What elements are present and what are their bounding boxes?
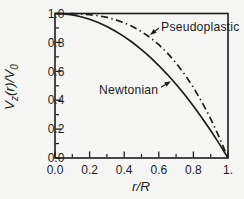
chart-generated-content: 0.00.20.40.60.81.0.00.20.40.60.81.0Pseud…	[47, 7, 240, 177]
x-tick-label: 1.	[223, 163, 233, 177]
y-axis-title: Vz(r)/V0	[2, 64, 20, 110]
chart-canvas: 0.00.20.40.60.81.0.00.20.40.60.81.0Pseud…	[0, 0, 244, 199]
y-tick-label: 0.8	[48, 36, 65, 50]
newtonian-label: Newtonian	[99, 83, 158, 97]
x-tick-label: 0.8	[185, 163, 202, 177]
y-tick-label: 0.4	[48, 93, 65, 107]
pseudoplastic-label: Pseudoplastic	[161, 20, 239, 34]
y-tick-label: 0.6	[48, 65, 65, 79]
x-tick-label: 0.6	[150, 163, 167, 177]
x-tick-label: 0.2	[81, 163, 98, 177]
velocity-profile-figure: 0.00.20.40.60.81.0.00.20.40.60.81.0Pseud…	[0, 0, 244, 199]
y-tick-label: 0.2	[48, 122, 65, 136]
x-axis-title: r/R	[132, 179, 150, 194]
y-tick-label: 0.0	[48, 151, 65, 165]
x-tick-label: 0.4	[116, 163, 133, 177]
newtonian-arrowhead-icon	[164, 81, 171, 86]
